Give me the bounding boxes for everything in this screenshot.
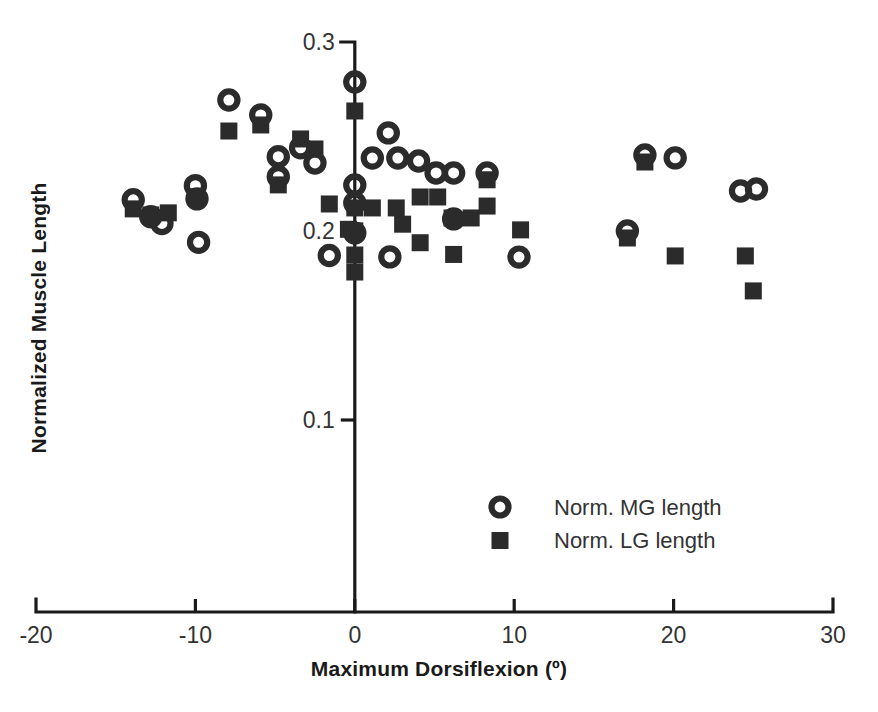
- data-point-lg-20: [429, 188, 446, 205]
- data-point-mg-17: [380, 124, 397, 141]
- legend-label-lg: Norm. LG length: [554, 528, 715, 553]
- y-tick-label-group: 0.10.20.3: [303, 29, 335, 433]
- y-tick-label-0.1: 0.1: [303, 407, 335, 433]
- data-point-mg-19: [364, 149, 381, 166]
- filled-square-icon: [492, 532, 509, 549]
- data-point-lg-9: [321, 195, 338, 212]
- x-tick-label-20: 20: [661, 622, 687, 648]
- data-point-lg-11: [346, 102, 363, 119]
- data-point-mg-18: [381, 248, 398, 265]
- data-point-lg-30: [667, 247, 684, 264]
- data-point-lg-4: [220, 123, 237, 140]
- legend-label-mg: Norm. MG length: [554, 495, 722, 520]
- x-tick-label--10: -10: [179, 622, 212, 648]
- open-circle-icon: [492, 499, 509, 516]
- data-point-mg-26: [510, 248, 527, 265]
- data-point-mg-23: [445, 164, 462, 181]
- data-point-lg-14: [346, 247, 363, 264]
- data-point-mg-10: [292, 139, 309, 156]
- data-point-mg-7: [252, 106, 269, 123]
- plot-canvas: -20-100102030 0.10.20.3 Maximum Dorsifle…: [0, 0, 878, 712]
- data-point-lg-31: [737, 247, 754, 264]
- legend-entry-mg: Norm. MG length: [492, 495, 722, 520]
- y-axis-title: Normalized Muscle Length: [27, 183, 50, 454]
- legend: Norm. MG length Norm. LG length: [492, 495, 722, 553]
- data-point-mg-20: [389, 149, 406, 166]
- data-point-mg-0: [125, 191, 142, 208]
- data-point-lg-17: [388, 199, 405, 216]
- x-tick-label-group: -20-100102030: [19, 622, 845, 648]
- x-axis-title: Maximum Dorsiflexion (º): [311, 657, 567, 680]
- data-point-lg-19: [412, 188, 429, 205]
- data-point-mg-12: [321, 247, 338, 264]
- data-point-lg-27: [512, 221, 529, 238]
- data-point-mg-31: [748, 180, 765, 197]
- data-point-mg-11: [306, 154, 323, 171]
- legend-entry-lg: Norm. LG length: [492, 528, 716, 553]
- scatter-plot-figure: -20-100102030 0.10.20.3 Maximum Dorsifle…: [0, 0, 878, 712]
- data-point-lg-15: [346, 264, 363, 281]
- x-axis-line: [36, 599, 833, 612]
- data-point-mg-2: [153, 215, 170, 232]
- x-tick-group: [195, 599, 673, 612]
- data-point-lg-25: [479, 198, 496, 215]
- data-point-lg-32: [745, 282, 762, 299]
- data-point-mg-28: [667, 149, 684, 166]
- data-point-lg-21: [412, 234, 429, 251]
- y-tick-label-0.2: 0.2: [303, 218, 335, 244]
- x-axis-group: -20-100102030: [19, 599, 845, 648]
- data-point-mg-6: [220, 91, 237, 108]
- series-norm-mg-length: [125, 73, 765, 265]
- data-point-lg-18: [394, 216, 411, 233]
- data-point-mg-5: [190, 234, 207, 251]
- y-tick-label-0.3: 0.3: [303, 29, 335, 55]
- x-tick-label--20: -20: [19, 622, 52, 648]
- data-point-mg-21: [410, 152, 427, 169]
- x-tick-label-10: 10: [501, 622, 527, 648]
- data-point-lg-26: [445, 246, 462, 263]
- x-tick-label-30: 30: [820, 622, 846, 648]
- y-axis-line: [341, 42, 355, 612]
- data-point-mg-8: [270, 148, 287, 165]
- x-tick-label-0: 0: [348, 622, 361, 648]
- series-norm-lg-length: [125, 102, 762, 299]
